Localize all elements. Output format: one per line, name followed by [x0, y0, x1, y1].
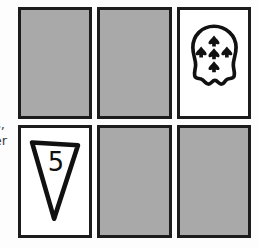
card-r1c2[interactable]	[97, 7, 172, 119]
card-r2c3[interactable]	[177, 125, 251, 238]
card-grid-stage: s, ver 5	[0, 0, 258, 248]
card-r1c3[interactable]	[177, 7, 251, 119]
card-r1c1[interactable]	[18, 7, 92, 119]
inverted-triangle-icon: 5	[21, 128, 89, 235]
margin-caption-line-1: s,	[0, 117, 5, 132]
card-value-label: 5	[48, 147, 64, 177]
margin-caption-line-2: ver	[0, 133, 7, 148]
card-r2c2[interactable]	[97, 125, 172, 238]
blob-ghost-icon	[180, 10, 248, 116]
card-r2c1[interactable]: 5	[18, 125, 92, 238]
